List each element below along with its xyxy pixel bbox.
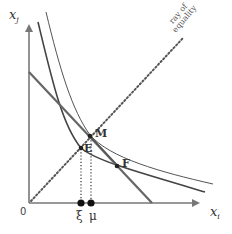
mu-axis-dot [87, 199, 94, 206]
mu-label: μ [89, 210, 97, 222]
x-axis-label-sub: i [217, 212, 220, 221]
xi-label: ξ [76, 210, 83, 222]
point-m-label: M [95, 128, 107, 139]
y-axis-label-sub: j [16, 15, 18, 24]
y-axis-label: xj [9, 8, 19, 24]
line-m-f [90, 136, 118, 166]
x-axis-label: xi [210, 205, 220, 221]
origin-label: 0 [20, 207, 26, 217]
ray-of-equality [31, 38, 183, 201]
point-e-label: E [84, 143, 92, 154]
diagram-canvas [0, 0, 232, 234]
point-f-label: F [122, 158, 130, 169]
xi-axis-dot [77, 199, 84, 206]
point-f-marker [115, 164, 120, 169]
point-e-marker [79, 146, 84, 151]
point-m-marker [88, 134, 93, 139]
